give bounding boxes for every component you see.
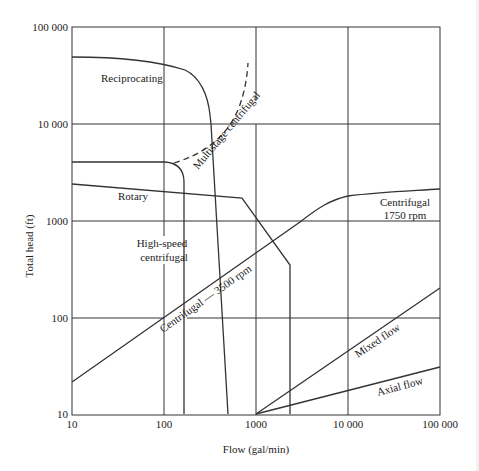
label-1750-rpm: 1750 rpm [384, 209, 427, 221]
label-high-speed: High-speed [137, 237, 188, 249]
y-tick-1000: 1000 [46, 215, 69, 227]
x-tick-10000: 10 000 [333, 418, 364, 430]
label-centrifugal-3500: Centrifugal — 3500 rpm [157, 262, 254, 335]
label-mixed-flow: Mixed flow [352, 321, 402, 360]
x-tick-10: 10 [67, 418, 79, 430]
label-reciprocating: Reciprocating [101, 72, 163, 84]
y-tick-100: 100 [52, 312, 69, 324]
y-axis-title: Total head (ft) [23, 214, 36, 277]
label-rotary: Rotary [118, 190, 148, 202]
label-multistage-centrifugal: Multistage centrifugal [190, 89, 262, 171]
pump-selection-chart: 100 000 10 000 1000 100 10 10 100 1000 1… [0, 0, 479, 471]
x-tick-100: 100 [156, 418, 173, 430]
rotary-curve [72, 184, 290, 414]
x-tick-1000: 1000 [245, 418, 268, 430]
label-centrifugal-1750: Centrifugal [380, 196, 430, 208]
x-axis-title: Flow (gal/min) [223, 443, 290, 456]
reciprocating-curve [72, 57, 228, 414]
y-tick-10000: 10 000 [38, 118, 69, 130]
x-tick-100000: 100 000 [422, 418, 458, 430]
label-high-speed-centrifugal: centrifugal [140, 251, 188, 263]
y-tick-100000: 100 000 [32, 21, 68, 33]
